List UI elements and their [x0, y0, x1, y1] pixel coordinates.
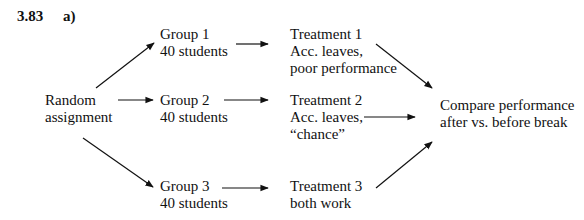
arrow-layer: [0, 0, 584, 220]
arrow-treatment-1-to-outcome: [376, 44, 432, 88]
arrow-random-to-group-1: [96, 43, 154, 88]
arrow-treatment-3-to-outcome: [376, 142, 432, 188]
arrow-random-to-group-3: [83, 138, 153, 187]
